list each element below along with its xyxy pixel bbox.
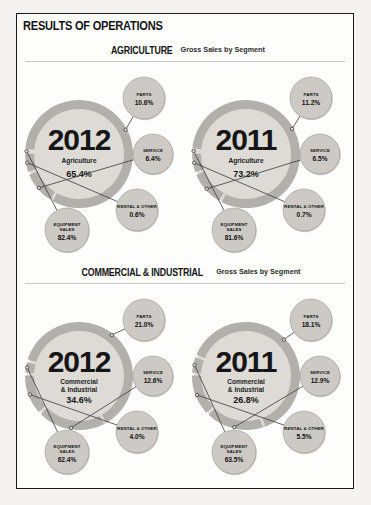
- callout-leader-line: [126, 116, 134, 130]
- callout-label: RENTAL & OTHER: [284, 426, 325, 431]
- callout-anchor-dot: [110, 333, 113, 336]
- donut-svg: 2011Agriculture73.2%PARTS11.2%SERVICE6.5…: [184, 62, 353, 262]
- callout-anchor-dot: [193, 363, 196, 366]
- donut-chart-agriculture-2011: 2011Agriculture73.2%PARTS11.2%SERVICE6.5…: [184, 62, 353, 262]
- callout-anchor-dot: [205, 187, 208, 190]
- callout-value: 6.5%: [312, 155, 327, 162]
- section-header: COMMERCIAL & INDUSTRIALGross Sales by Se…: [17, 262, 353, 284]
- callout-anchor-dot: [28, 393, 31, 396]
- chart-center-label: Agriculture: [61, 157, 97, 165]
- callout-bubble: EQUIPMENTSALES81.6%: [212, 208, 257, 253]
- callout-value: 11.2%: [302, 99, 320, 106]
- chart-year: 2012: [48, 123, 111, 156]
- callout-label-line2: SALES: [226, 449, 241, 454]
- callout-bubble: SERVICE6.4%: [133, 134, 174, 175]
- callout-value: 82.4%: [58, 234, 77, 241]
- callout-value: 6.4%: [145, 155, 160, 162]
- callout-bubble: EQUIPMENTSALES82.4%: [45, 208, 90, 253]
- callout-label-line2: SALES: [59, 449, 74, 454]
- callout-anchor-dot: [25, 149, 28, 152]
- callout-label: PARTS: [136, 314, 151, 319]
- callout-anchor-dot: [26, 161, 29, 164]
- callout-anchor-dot: [193, 161, 196, 164]
- chart-center-value: 26.8%: [233, 395, 259, 405]
- callout-anchor-dot: [37, 186, 40, 189]
- callout-anchor-dot: [192, 149, 195, 152]
- callout-bubble: RENTAL & OTHER5.5%: [283, 411, 326, 454]
- callout-anchor-dot: [124, 128, 127, 131]
- callout-bubble: PARTS21.0%: [123, 299, 166, 342]
- section-title: COMMERCIAL & INDUSTRIAL: [81, 266, 202, 278]
- chart-center-value: 65.4%: [66, 169, 92, 179]
- donut-chart-commercial-2011: 2011Commercial& Industrial26.8%PARTS18.1…: [184, 284, 353, 484]
- callout-anchor-dot: [195, 393, 198, 396]
- callout-label: PARTS: [136, 92, 151, 97]
- callout-bubble: PARTS11.2%: [290, 77, 333, 120]
- chart-center-label: Commercial: [227, 378, 265, 385]
- donut-svg: 2012Commercial& Industrial34.6%PARTS21.0…: [17, 284, 186, 484]
- callout-leader-line: [292, 116, 300, 129]
- callout-bubble: RENTAL & OTHER4.0%: [116, 411, 159, 454]
- callout-leader-line: [112, 329, 125, 335]
- callout-label-line2: SALES: [226, 227, 241, 232]
- callout-value: 0.7%: [296, 211, 311, 218]
- report-page: RESULTS OF OPERATIONS AGRICULTUREGross S…: [16, 13, 354, 489]
- callout-bubble: RENTAL & OTHER0.7%: [283, 189, 326, 232]
- callout-bubble: SERVICE12.6%: [133, 356, 174, 397]
- callout-value: 0.6%: [129, 211, 144, 218]
- chart-year: 2011: [215, 123, 276, 156]
- chart-center-value: 34.6%: [66, 395, 92, 405]
- callout-value: 18.1%: [302, 321, 321, 328]
- chart-center-label-line2: & Industrial: [228, 386, 264, 393]
- chart-year: 2011: [215, 345, 276, 378]
- callout-value: 5.5%: [296, 433, 311, 440]
- callout-anchor-dot: [282, 338, 285, 341]
- section-header: AGRICULTUREGross Sales by Segment: [17, 40, 353, 62]
- callout-label: RENTAL & OTHER: [284, 204, 325, 209]
- chart-center-label: Commercial: [60, 378, 98, 385]
- section-subtitle: Gross Sales by Segment: [181, 45, 265, 54]
- callout-anchor-dot: [290, 127, 293, 130]
- callout-label: RENTAL & OTHER: [117, 426, 158, 431]
- callout-label: SERVICE: [310, 148, 330, 153]
- callout-bubble: SERVICE12.9%: [300, 356, 341, 397]
- callout-value: 12.6%: [144, 377, 163, 384]
- callout-label-line2: SALES: [59, 227, 74, 232]
- callout-label: PARTS: [303, 92, 318, 97]
- donut-chart-agriculture-2012: 2012Agriculture65.4%PARTS10.6%SERVICE6.4…: [17, 62, 186, 262]
- callout-value: 12.9%: [311, 377, 330, 384]
- chart-year: 2012: [48, 345, 111, 378]
- callout-bubble: SERVICE6.5%: [300, 134, 341, 175]
- callout-anchor-dot: [233, 425, 236, 428]
- section-commercial-industrial: COMMERCIAL & INDUSTRIALGross Sales by Se…: [17, 262, 353, 488]
- callout-bubble: RENTAL & OTHER0.6%: [116, 189, 159, 232]
- callout-value: 10.6%: [135, 99, 154, 106]
- callout-anchor-dot: [69, 426, 72, 429]
- section-subtitle: Gross Sales by Segment: [216, 267, 300, 276]
- page-title: RESULTS OF OPERATIONS: [23, 18, 163, 33]
- callout-anchor-dot: [25, 366, 28, 369]
- donut-svg: 2011Commercial& Industrial26.8%PARTS18.1…: [184, 284, 353, 484]
- chart-row: 2012Agriculture65.4%PARTS10.6%SERVICE6.4…: [17, 62, 353, 262]
- donut-chart-commercial-2012: 2012Commercial& Industrial34.6%PARTS21.0…: [17, 284, 186, 484]
- callout-label: SERVICE: [310, 370, 330, 375]
- callout-bubble: EQUIPMENTSALES63.5%: [212, 430, 257, 475]
- callout-bubble: EQUIPMENTSALES62.4%: [45, 430, 90, 475]
- callout-value: 63.5%: [225, 456, 244, 463]
- section-title: AGRICULTURE: [111, 44, 173, 56]
- callout-value: 4.0%: [129, 433, 144, 440]
- chart-center-label: Agriculture: [228, 157, 264, 165]
- chart-row: 2012Commercial& Industrial34.6%PARTS21.0…: [17, 284, 353, 484]
- callout-label: SERVICE: [143, 148, 163, 153]
- callout-value: 21.0%: [135, 321, 154, 328]
- callout-label: RENTAL & OTHER: [117, 204, 158, 209]
- callout-label: SERVICE: [143, 370, 163, 375]
- donut-svg: 2012Agriculture65.4%PARTS10.6%SERVICE6.4…: [17, 62, 186, 262]
- callout-value: 62.4%: [58, 456, 77, 463]
- callout-value: 81.6%: [225, 234, 244, 241]
- section-agriculture: AGRICULTUREGross Sales by Segment 2012Ag…: [17, 40, 353, 262]
- callout-label: PARTS: [303, 314, 318, 319]
- callout-bubble: PARTS10.6%: [123, 77, 166, 120]
- chart-center-label-line2: & Industrial: [61, 386, 97, 393]
- callout-bubble: PARTS18.1%: [290, 299, 333, 342]
